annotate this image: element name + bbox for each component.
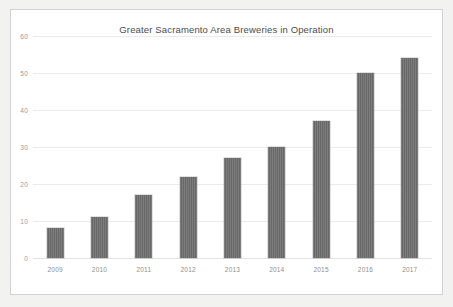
bar-slot-2009: 2009	[33, 36, 77, 258]
x-tick-label-2012: 2012	[181, 266, 196, 273]
bar-2010[interactable]	[91, 217, 108, 258]
bar-2014[interactable]	[268, 147, 285, 258]
bar-2015[interactable]	[313, 121, 330, 258]
x-tick-label-2010: 2010	[92, 266, 107, 273]
bar-slot-2012: 2012	[166, 36, 210, 258]
bar-slot-2011: 2011	[122, 36, 166, 258]
y-tick-label-50: 50	[20, 69, 28, 76]
bar-2013[interactable]	[224, 158, 241, 258]
x-tick-label-2015: 2015	[313, 266, 328, 273]
x-tick-label-2016: 2016	[358, 266, 373, 273]
bar-2016[interactable]	[357, 73, 374, 258]
x-tick-label-2017: 2017	[402, 266, 417, 273]
x-tick-label-2011: 2011	[136, 266, 151, 273]
gridline-0	[33, 258, 432, 259]
y-tick-label-0: 0	[24, 255, 28, 262]
y-tick-label-40: 40	[20, 106, 28, 113]
bar-2017[interactable]	[401, 58, 418, 258]
plot-area: 0102030405060 20092010201120122013201420…	[33, 36, 432, 258]
bar-2012[interactable]	[180, 177, 197, 258]
y-tick-label-10: 10	[20, 218, 28, 225]
bar-2009[interactable]	[47, 228, 64, 258]
bar-slot-2010: 2010	[77, 36, 121, 258]
x-tick-label-2009: 2009	[48, 266, 63, 273]
bar-slot-2017: 2017	[388, 36, 432, 258]
bar-slot-2013: 2013	[210, 36, 254, 258]
bar-series: 200920102011201220132014201520162017	[33, 36, 432, 258]
bar-slot-2016: 2016	[343, 36, 387, 258]
x-tick-label-2014: 2014	[269, 266, 284, 273]
y-tick-label-30: 30	[20, 144, 28, 151]
y-tick-label-20: 20	[20, 180, 28, 187]
x-tick-label-2013: 2013	[225, 266, 240, 273]
chart-card: Greater Sacramento Area Breweries in Ope…	[10, 9, 443, 295]
bar-2011[interactable]	[135, 195, 152, 258]
bar-slot-2014: 2014	[255, 36, 299, 258]
bar-slot-2015: 2015	[299, 36, 343, 258]
chart-title: Greater Sacramento Area Breweries in Ope…	[11, 24, 442, 35]
